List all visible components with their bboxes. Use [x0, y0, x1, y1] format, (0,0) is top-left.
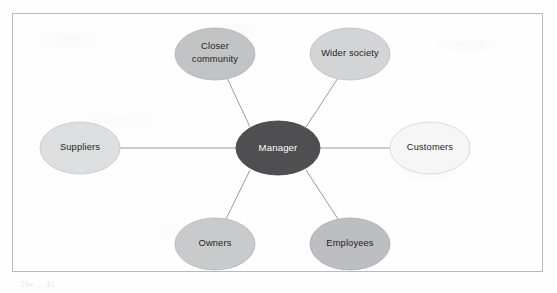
node-employees-label: Employees — [326, 238, 374, 248]
node-wider-society-label: Wider society — [321, 48, 379, 58]
node-closer-community-label-line2: community — [192, 54, 238, 64]
edge-manager-closer-community — [227, 78, 250, 127]
node-closer-community[interactable]: Closer community — [175, 28, 255, 80]
figure-caption-partial: The ... ibl — [20, 279, 250, 290]
node-suppliers-label: Suppliers — [60, 142, 100, 152]
node-suppliers[interactable]: Suppliers — [40, 122, 120, 174]
node-customers[interactable]: Customers — [390, 122, 470, 174]
node-employees[interactable]: Employees — [310, 218, 390, 270]
stakeholder-diagram: Closer community Wider society Suppliers… — [12, 13, 543, 272]
node-manager-label: Manager — [259, 142, 299, 153]
node-customers-label: Customers — [407, 142, 453, 152]
figure-caption-text: The ... ibl — [20, 279, 250, 290]
edge-manager-employees — [306, 170, 338, 219]
node-closer-community-label-line1: Closer — [201, 41, 229, 51]
node-wider-society[interactable]: Wider society — [310, 28, 390, 80]
node-owners[interactable]: Owners — [175, 218, 255, 270]
edge-manager-wider-society — [306, 78, 338, 127]
edge-manager-owners — [226, 170, 250, 219]
scanned-page-background: Closer community Wider society Suppliers… — [0, 0, 557, 293]
node-manager-center[interactable]: Manager — [236, 121, 320, 175]
node-owners-label: Owners — [199, 238, 232, 248]
